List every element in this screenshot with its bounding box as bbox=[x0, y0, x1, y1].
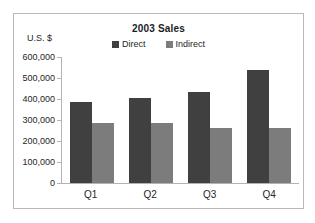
legend-label: Direct bbox=[122, 39, 146, 49]
legend-label: Indirect bbox=[176, 39, 206, 49]
y-tick-label: 400,000 bbox=[14, 94, 55, 104]
category-group-q2 bbox=[121, 57, 180, 183]
bar-direct-q2 bbox=[129, 98, 151, 183]
plot-area-bars bbox=[62, 57, 299, 183]
y-tick-label: 0 bbox=[14, 178, 55, 188]
bar-indirect-q4 bbox=[269, 128, 291, 183]
x-axis-label-q2: Q2 bbox=[121, 189, 181, 200]
bar-direct-q4 bbox=[247, 70, 269, 183]
y-tick-mark bbox=[57, 162, 61, 163]
chart-panel: 2003 Sales DirectIndirect U.S. $ 600,000… bbox=[13, 13, 304, 209]
y-tick-mark bbox=[57, 141, 61, 142]
legend: DirectIndirect bbox=[14, 39, 303, 49]
x-axis-label-q3: Q3 bbox=[180, 189, 240, 200]
y-tick-mark bbox=[57, 99, 61, 100]
y-tick-mark bbox=[57, 120, 61, 121]
y-tick-mark bbox=[57, 57, 61, 58]
x-axis-labels: Q1Q2Q3Q4 bbox=[61, 189, 299, 200]
y-tick-mark bbox=[57, 78, 61, 79]
x-axis-label-q1: Q1 bbox=[61, 189, 121, 200]
bar-indirect-q1 bbox=[92, 123, 114, 183]
x-axis-label-q4: Q4 bbox=[240, 189, 300, 200]
legend-item-indirect: Indirect bbox=[166, 39, 206, 49]
bar-indirect-q3 bbox=[210, 128, 232, 183]
y-tick-label: 300,000 bbox=[14, 115, 55, 125]
y-tick-label: 500,000 bbox=[14, 73, 55, 83]
y-tick-mark bbox=[57, 183, 61, 184]
category-group-q1 bbox=[62, 57, 121, 183]
chart-title: 2003 Sales bbox=[14, 23, 303, 34]
legend-item-direct: Direct bbox=[112, 39, 146, 49]
bar-direct-q3 bbox=[188, 92, 210, 183]
y-tick-label: 100,000 bbox=[14, 157, 55, 167]
y-tick-label: 600,000 bbox=[14, 52, 55, 62]
category-group-q4 bbox=[240, 57, 299, 183]
plot-area bbox=[61, 57, 299, 184]
bar-indirect-q2 bbox=[151, 123, 173, 183]
category-group-q3 bbox=[181, 57, 240, 183]
y-tick-label: 200,000 bbox=[14, 136, 55, 146]
legend-swatch-indirect bbox=[166, 41, 173, 48]
legend-swatch-direct bbox=[112, 41, 119, 48]
bar-direct-q1 bbox=[70, 102, 92, 183]
y-axis-labels: 600,000500,000400,000300,000200,000100,0… bbox=[14, 14, 55, 208]
